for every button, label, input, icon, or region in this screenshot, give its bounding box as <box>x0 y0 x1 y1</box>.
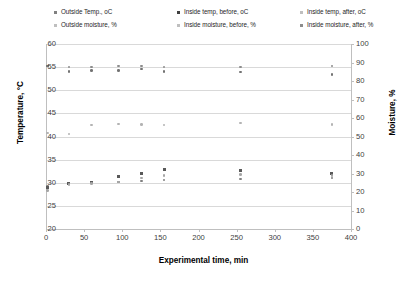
legend-item[interactable]: Inside moisture, before, % <box>177 19 256 31</box>
data-point <box>90 182 93 185</box>
y-axis-right-title: Moisture, % <box>388 73 397 153</box>
data-point <box>90 124 93 127</box>
y-axis-right-tick: 90 <box>356 58 382 67</box>
legend-marker-icon <box>177 11 180 14</box>
y-axis-left-tick: 50 <box>30 85 56 94</box>
y-axis-left-title: Temperature, °C <box>16 73 25 153</box>
data-point <box>117 181 120 184</box>
x-axis-tick: 350 <box>298 233 328 242</box>
data-point <box>239 178 242 181</box>
data-point <box>90 69 93 72</box>
x-axis-tickmark <box>122 229 123 232</box>
data-point <box>117 123 120 126</box>
legend-item[interactable]: Outside moisture, % <box>54 19 117 31</box>
legend-marker-icon <box>177 24 180 27</box>
y-axis-left-tick: 35 <box>30 155 56 164</box>
x-axis-tickmark <box>160 229 161 232</box>
data-point <box>331 177 334 180</box>
x-axis-tickmark <box>351 229 352 232</box>
y-axis-left-tick: 45 <box>30 108 56 117</box>
data-point <box>68 133 71 136</box>
data-point <box>140 68 143 71</box>
data-point <box>239 169 242 172</box>
y-axis-left-tick: 55 <box>30 62 56 71</box>
legend-marker-icon <box>54 24 57 27</box>
y-axis-right-tick: 40 <box>356 150 382 159</box>
data-point <box>140 172 143 175</box>
data-point <box>117 175 120 178</box>
legend-row: Outside moisture, %Inside moisture, befo… <box>54 19 402 31</box>
legend-marker-icon <box>300 24 303 27</box>
data-point <box>140 180 143 183</box>
x-axis-tickmark <box>199 229 200 232</box>
data-point <box>163 179 166 182</box>
legend-label: Outside moisture, % <box>61 19 117 31</box>
legend-marker-icon <box>54 11 57 14</box>
data-point <box>239 122 242 125</box>
data-point <box>163 174 166 177</box>
x-axis-tickmark <box>275 229 276 232</box>
data-point <box>163 124 166 127</box>
y-axis-right-tick: 30 <box>356 169 382 178</box>
y-axis-right-tick: 10 <box>356 206 382 215</box>
gridline <box>46 90 351 91</box>
x-axis-tick: 300 <box>260 233 290 242</box>
y-axis-right-tick: 80 <box>356 76 382 85</box>
gridline <box>46 44 351 45</box>
legend-label: Inside moisture, after, % <box>307 19 373 31</box>
data-point <box>331 174 334 177</box>
data-point <box>68 183 71 186</box>
gridline <box>46 206 351 207</box>
x-axis-tick: 0 <box>31 233 61 242</box>
y-axis-right-line <box>351 44 352 229</box>
x-axis-tickmark <box>313 229 314 232</box>
x-axis-tickmark <box>84 229 85 232</box>
y-axis-right-tick: 50 <box>356 132 382 141</box>
x-axis-tick: 150 <box>145 233 175 242</box>
x-axis-tick: 100 <box>107 233 137 242</box>
data-point <box>163 70 166 73</box>
y-axis-right-tick: 70 <box>356 95 382 104</box>
legend-item[interactable]: Inside temp, after, oC <box>300 6 366 18</box>
data-point <box>140 65 143 68</box>
legend-item[interactable]: Inside temp, before, oC <box>177 6 248 18</box>
x-axis-title: Experimental time, min <box>0 256 407 265</box>
legend-label: Inside temp, before, oC <box>184 6 248 18</box>
y-axis-right-tick: 60 <box>356 113 382 122</box>
x-axis-tick: 400 <box>336 233 366 242</box>
legend-item[interactable]: Inside moisture, after, % <box>300 19 373 31</box>
gridline <box>46 137 351 138</box>
x-axis-tick: 50 <box>69 233 99 242</box>
data-point <box>117 69 120 72</box>
data-point <box>239 173 242 176</box>
data-point <box>239 71 242 74</box>
legend-marker-icon <box>300 11 303 14</box>
x-axis-tickmark <box>237 229 238 232</box>
data-point <box>331 73 334 76</box>
legend-label: Inside moisture, before, % <box>184 19 256 31</box>
chart-legend: Outside Temp., oCInside temp, before, oC… <box>54 6 402 32</box>
legend-row: Outside Temp., oCInside temp, before, oC… <box>54 6 402 18</box>
gridline <box>46 113 351 114</box>
data-point <box>68 70 71 73</box>
y-axis-left-tick: 20 <box>30 224 56 233</box>
y-axis-left-tick: 40 <box>30 132 56 141</box>
chart-container: Outside Temp., oCInside temp, before, oC… <box>0 0 407 281</box>
y-axis-left-tick: 25 <box>30 201 56 210</box>
legend-label: Inside temp, after, oC <box>307 6 366 18</box>
y-axis-right-tick: 0 <box>356 224 382 233</box>
data-point <box>331 123 334 126</box>
data-point <box>163 168 166 171</box>
y-axis-left-tick: 60 <box>30 39 56 48</box>
gridline <box>46 160 351 161</box>
plot-area <box>46 44 351 229</box>
x-axis-tick: 200 <box>184 233 214 242</box>
data-point <box>46 189 49 192</box>
legend-label: Outside Temp., oC <box>61 6 112 18</box>
y-axis-right-tick: 100 <box>356 39 382 48</box>
x-axis-tick: 250 <box>222 233 252 242</box>
y-axis-left-tick: 30 <box>30 178 56 187</box>
data-point <box>140 123 143 126</box>
legend-item[interactable]: Outside Temp., oC <box>54 6 112 18</box>
y-axis-right-tick: 20 <box>356 187 382 196</box>
